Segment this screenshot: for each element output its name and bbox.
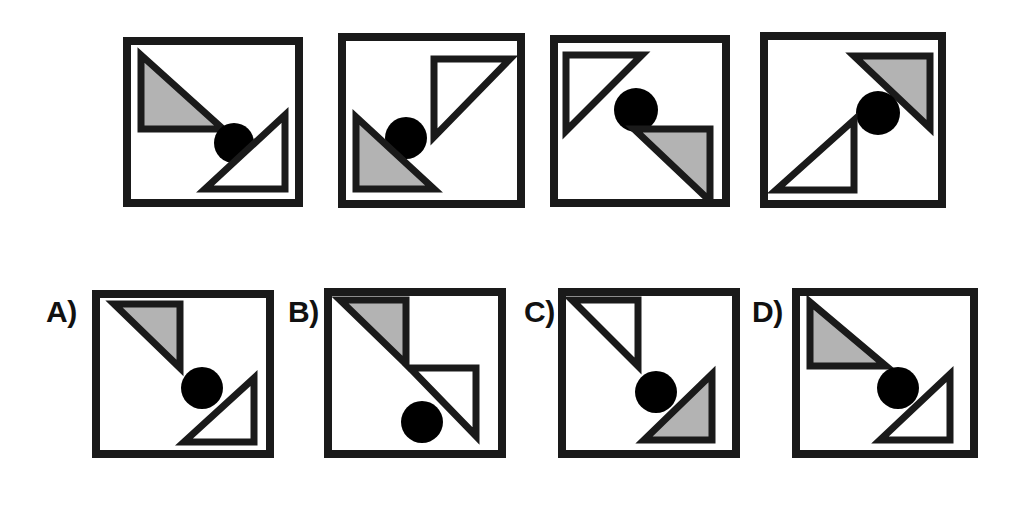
option-option-c[interactable]: [558, 288, 740, 458]
option-label-a: A): [46, 297, 77, 327]
sequence-panel-seq-1: [123, 37, 303, 207]
option-option-b[interactable]: [324, 288, 506, 458]
option-option-a[interactable]: [92, 290, 274, 458]
option-option-d[interactable]: [792, 288, 978, 458]
option-label-b: B): [288, 297, 319, 327]
black-circle: [181, 367, 223, 409]
option-label-d: D): [752, 297, 783, 327]
puzzle-canvas: A)B)C)D): [0, 0, 1027, 505]
black-circle: [877, 367, 919, 409]
option-label-c: C): [524, 297, 555, 327]
black-circle: [635, 371, 677, 413]
sequence-panel-seq-2: [338, 33, 525, 208]
black-circle: [401, 401, 443, 443]
black-circle: [856, 91, 900, 135]
sequence-panel-seq-4: [760, 32, 946, 208]
sequence-panel-seq-3: [550, 35, 730, 207]
black-circle: [614, 88, 658, 132]
